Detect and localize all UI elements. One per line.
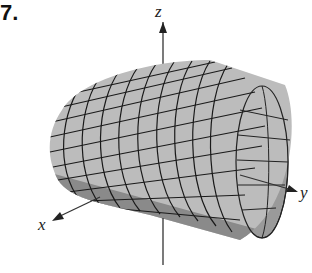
- x-axis-arrowhead: [52, 212, 64, 221]
- z-axis-label: z: [155, 2, 162, 22]
- x-axis: [56, 197, 100, 218]
- z-axis-arrowhead: [159, 22, 167, 33]
- cylinder-diagram: [0, 0, 312, 273]
- y-axis-label: y: [300, 183, 308, 203]
- x-axis-label: x: [38, 215, 46, 235]
- y-axis-arrowhead: [286, 185, 298, 192]
